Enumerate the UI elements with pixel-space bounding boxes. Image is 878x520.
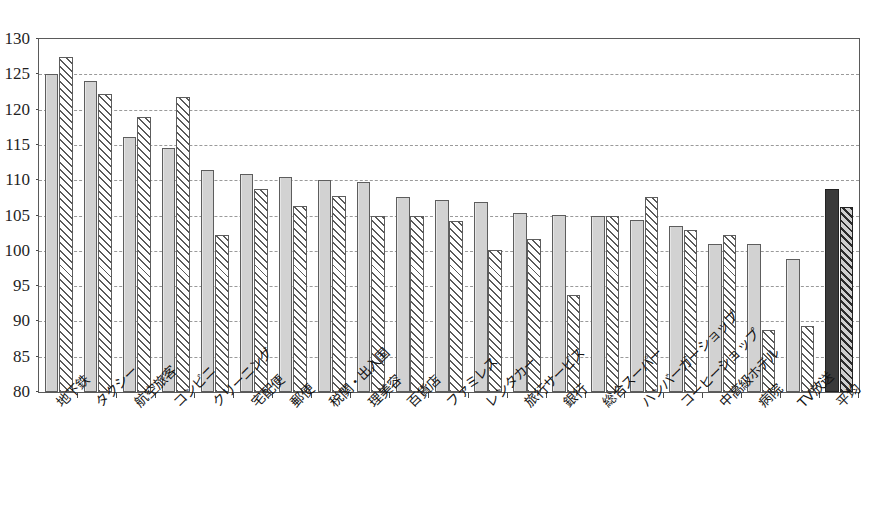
bar-1-総合スーパー [591, 216, 605, 392]
bar-2-タクシー [98, 94, 112, 392]
y-tick-label-100: 100 [5, 242, 31, 259]
bar-2-平均 [840, 207, 854, 392]
bar-1-タクシー [84, 81, 98, 392]
bar-1-航空旅客 [123, 137, 137, 392]
y-tick-label-110: 110 [5, 171, 30, 188]
y-tick-label-95: 95 [13, 277, 30, 294]
bar-2-税関・出入国 [332, 196, 346, 392]
bar-1-平均 [825, 189, 839, 392]
bar-2-銀行 [567, 295, 581, 392]
bar-1-コンビニ [162, 148, 176, 392]
bar-2-郵便 [293, 206, 307, 392]
y-tick-label-105: 105 [5, 207, 31, 224]
bar-1-地下鉄 [45, 74, 59, 392]
bar-2-百貨店 [410, 216, 424, 393]
bar-2-地下鉄 [59, 57, 73, 392]
y-tick-label-85: 85 [13, 348, 30, 365]
y-tick-label-130: 130 [5, 30, 31, 47]
y-tick-label-120: 120 [5, 101, 31, 118]
y-tick-label-90: 90 [13, 312, 30, 329]
bar-1-クリーニング [201, 170, 215, 392]
y-tick-label-115: 115 [5, 136, 30, 153]
y-tick-label-125: 125 [5, 65, 31, 82]
bar-2-航空旅客 [137, 117, 151, 392]
y-axis: 13012512011511010510095908580 [0, 30, 36, 402]
bar-2-ファミレス [449, 221, 463, 392]
bar-1-ファミレス [435, 200, 449, 392]
chart-title [0, 0, 878, 9]
bar-2-コンビニ [176, 97, 190, 392]
bar-1-税関・出入国 [318, 180, 332, 392]
bar-1-郵便 [279, 177, 293, 392]
x-axis-labels: 地下鉄タクシー航空旅客コンビニクリーニング宅配便郵便税関・出入国理美容百貨店ファ… [0, 396, 878, 520]
bar-2-総合スーパー [606, 216, 620, 393]
bar-chart: 13012512011511010510095908580 地下鉄タクシー航空旅… [0, 0, 878, 520]
bar-2-クリーニング [215, 235, 229, 392]
bar-1-百貨店 [396, 197, 410, 392]
bar-1-TV放送 [786, 259, 800, 392]
